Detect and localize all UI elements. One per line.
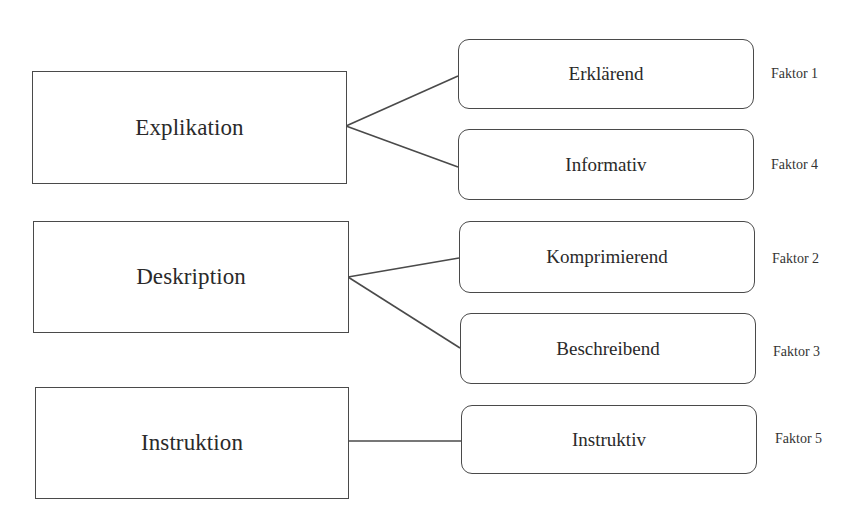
sub-label: Komprimierend [546, 246, 667, 268]
sub-label: Informativ [565, 154, 646, 176]
factor-label-1: Faktor 1 [771, 66, 818, 82]
sub-box-komprimierend: Komprimierend [459, 221, 755, 293]
sub-label: Beschreibend [556, 338, 659, 360]
category-box-instruktion: Instruktion [35, 387, 349, 499]
sub-box-instruktiv: Instruktiv [461, 405, 757, 474]
connector-deskription-beschreibend [348, 277, 460, 348]
category-label: Explikation [135, 115, 243, 141]
sub-label: Erklärend [569, 63, 644, 85]
factor-label-3: Faktor 3 [773, 344, 820, 360]
sub-box-informativ: Informativ [458, 129, 754, 200]
category-label: Deskription [136, 264, 246, 290]
sub-box-beschreibend: Beschreibend [460, 313, 756, 384]
category-label: Instruktion [141, 430, 243, 456]
factor-label-5: Faktor 5 [775, 431, 822, 447]
sub-label: Instruktiv [572, 429, 646, 451]
connector-deskription-komprimierend [348, 258, 459, 277]
category-box-explikation: Explikation [32, 71, 347, 184]
category-box-deskription: Deskription [33, 221, 349, 333]
sub-box-erklaerend: Erklärend [458, 39, 754, 109]
factor-label-4: Faktor 4 [771, 157, 818, 173]
diagram-canvas: Explikation Deskription Instruktion Erkl… [0, 0, 858, 518]
factor-label-2: Faktor 2 [772, 251, 819, 267]
connector-explikation-erklaerend [346, 76, 458, 126]
connector-explikation-informativ [346, 126, 458, 167]
